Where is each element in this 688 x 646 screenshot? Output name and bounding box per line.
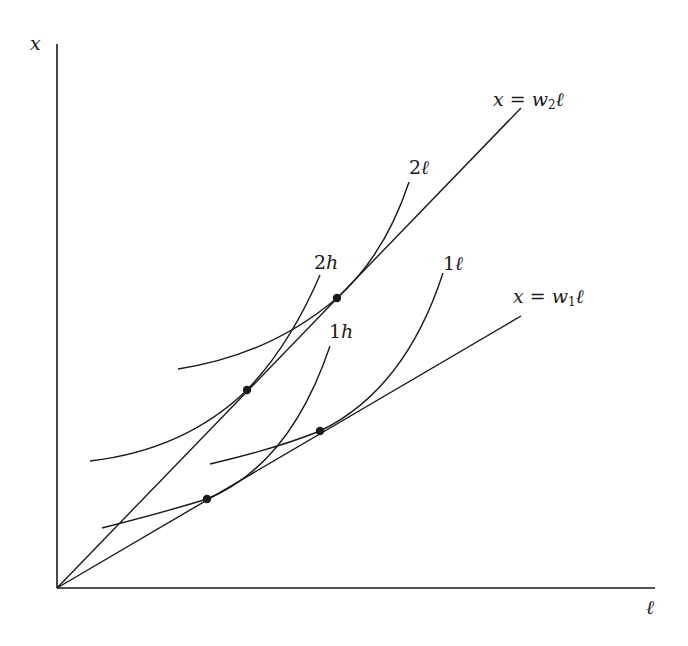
ray-w1-label-lhs: x = w bbox=[513, 285, 568, 307]
curve-2h-label: 2h bbox=[314, 253, 338, 272]
curve-1l-label-var: ℓ bbox=[455, 252, 463, 274]
ray-w2-label-rhs: ℓ bbox=[556, 88, 564, 110]
tangency-point-1l bbox=[316, 427, 324, 435]
curve-1l bbox=[210, 273, 443, 464]
tangency-point-2l bbox=[333, 294, 341, 302]
curve-1l-label: 1ℓ bbox=[443, 254, 463, 273]
curve-1l-label-num: 1 bbox=[443, 252, 455, 274]
ray-w2-label-sub: 2 bbox=[548, 98, 556, 112]
x-axis-label: ℓ bbox=[646, 598, 654, 617]
curve-2l-label: 2ℓ bbox=[409, 158, 429, 177]
ray-w1-label-rhs: ℓ bbox=[576, 285, 584, 307]
curve-1h-label-var: h bbox=[341, 320, 353, 342]
curve-1h bbox=[102, 346, 330, 528]
curve-2l-label-num: 2 bbox=[409, 156, 421, 178]
ray-w1-label: x = w1ℓ bbox=[513, 287, 584, 308]
ray-w2-label: x = w2ℓ bbox=[493, 90, 564, 111]
tangency-point-2h bbox=[243, 386, 251, 394]
curve-2l-label-var: ℓ bbox=[421, 156, 429, 178]
curve-2h-label-num: 2 bbox=[314, 251, 326, 273]
ray-w1 bbox=[57, 316, 521, 588]
ray-w1-label-sub: 1 bbox=[568, 295, 576, 309]
curve-1h-label-num: 1 bbox=[329, 320, 341, 342]
curve-2h bbox=[90, 275, 320, 461]
curve-2l bbox=[178, 182, 409, 369]
ray-w2 bbox=[57, 108, 521, 588]
curve-1h-label: 1h bbox=[329, 322, 353, 341]
curve-2h-label-var: h bbox=[326, 251, 338, 273]
ray-w2-label-lhs: x = w bbox=[493, 88, 548, 110]
y-axis-label: x bbox=[30, 34, 41, 53]
tangency-point-1h bbox=[203, 495, 211, 503]
